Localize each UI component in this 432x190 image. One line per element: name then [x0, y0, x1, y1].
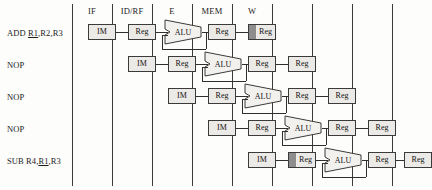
wire-mem-to-wb-row5	[396, 160, 404, 161]
alu-row2: ALU	[204, 51, 242, 77]
wire-im-to-reg-row5	[276, 160, 288, 161]
alu-row1-label: ALU	[168, 19, 198, 45]
wb-reg-row3-label: Reg	[336, 92, 349, 100]
im-box-row4-label: IM	[217, 124, 227, 132]
mem-reg-row1: Reg	[208, 24, 236, 40]
stage-header-if: IF	[76, 6, 108, 16]
stage-header-e: E	[156, 6, 188, 16]
alu-row3-label: ALU	[248, 83, 278, 109]
pipeline-diagram: IFID/RFEMEMW ADD R1,R2,R3NOPNOPNOPSUB R4…	[0, 0, 432, 190]
wb-reg-row2: Reg	[288, 56, 316, 72]
reg-file-row5-label: Reg	[299, 156, 312, 164]
wb-reg-row2-label: Reg	[296, 60, 309, 68]
wire-alu-feedback-row2	[202, 81, 246, 82]
wire-alu-feedback-up-row3	[242, 99, 243, 113]
mem-reg-row4: Reg	[328, 120, 356, 136]
wire-mem-to-wb-row1	[236, 32, 248, 33]
mem-reg-row5: Reg	[368, 152, 396, 168]
wire-alu-feedback-row5	[322, 177, 366, 178]
mem-reg-row5-label: Reg	[376, 156, 389, 164]
mem-reg-row1-label: Reg	[216, 28, 229, 36]
alu-row3: ALU	[244, 83, 282, 109]
instruction-label-3: NOP	[7, 92, 24, 102]
stage-header-w: W	[236, 6, 268, 16]
reg-file-row4-label: Reg	[256, 124, 269, 132]
wire-im-to-reg-row2	[156, 64, 168, 65]
mem-reg-row2-label: Reg	[256, 60, 269, 68]
reg-file-row3: Reg	[208, 88, 236, 104]
wire-im-to-reg-row1	[116, 32, 128, 33]
wire-mem-to-wb-row2	[276, 64, 288, 65]
alu-row1: ALU	[164, 19, 202, 45]
im-box-row5-label: IM	[257, 156, 267, 164]
wb-reg-row5: Reg	[404, 152, 432, 168]
wire-alu-lower-input-row5	[322, 163, 328, 164]
im-box-row2-label: IM	[137, 60, 147, 68]
im-box-row1: IM	[88, 24, 116, 40]
im-box-row3: IM	[168, 88, 196, 104]
wb-reg-row4: Reg	[368, 120, 396, 136]
im-box-row2: IM	[128, 56, 156, 72]
alu-row4: ALU	[284, 115, 322, 141]
mem-reg-row3: Reg	[288, 88, 316, 104]
wire-alu-feedback-row1	[162, 49, 206, 50]
instruction-label-2: NOP	[7, 60, 24, 70]
mem-reg-row3-label: Reg	[296, 92, 309, 100]
wb-reg-row1: Reg	[248, 24, 276, 40]
wb-reg-row1-label: Reg	[259, 28, 272, 36]
wire-alu-lower-input-row1	[162, 35, 168, 36]
wire-im-to-reg-row3	[196, 96, 208, 97]
reg-file-row1: Reg	[128, 24, 156, 40]
stage-header-idrf: ID/RF	[116, 6, 148, 16]
wb-reg-row4-label: Reg	[376, 124, 389, 132]
wire-alu-lower-input-row2	[202, 67, 208, 68]
wire-alu-feedback-row4	[282, 145, 326, 146]
stage-separator-0	[72, 4, 73, 186]
reg-file-row2: Reg	[168, 56, 196, 72]
wire-alu-feedback-down-row4	[326, 128, 327, 145]
alu-row2-label: ALU	[208, 51, 238, 77]
wire-alu-lower-input-row3	[242, 99, 248, 100]
reg-file-row2-label: Reg	[176, 60, 189, 68]
wire-alu-feedback-down-row2	[246, 64, 247, 81]
wire-alu-feedback-down-row1	[206, 32, 207, 49]
wire-alu-lower-input-row4	[282, 131, 288, 132]
mem-reg-row2: Reg	[248, 56, 276, 72]
alu-row5: ALU	[324, 147, 362, 173]
alu-row4-label: ALU	[288, 115, 318, 141]
im-box-row4: IM	[208, 120, 236, 136]
im-box-row3-label: IM	[177, 92, 187, 100]
reg-file-row5: Reg	[288, 152, 316, 168]
wire-mem-to-wb-row4	[356, 128, 368, 129]
reg-file-row4: Reg	[248, 120, 276, 136]
wire-mem-to-wb-row3	[316, 96, 328, 97]
alu-row5-label: ALU	[328, 147, 358, 173]
instruction-label-1: ADD R1,R2,R3	[7, 28, 63, 38]
wire-im-to-reg-row4	[236, 128, 248, 129]
stage-header-mem: MEM	[196, 6, 228, 16]
wire-alu-feedback-up-row2	[202, 67, 203, 81]
wire-alu-feedback-row3	[242, 113, 286, 114]
instruction-label-5: SUB R4,R1,R3	[7, 156, 61, 166]
wire-alu-feedback-down-row5	[366, 160, 367, 177]
reg-file-row1-label: Reg	[136, 28, 149, 36]
wb-reg-row3: Reg	[328, 88, 356, 104]
wb-reg-row5-label: Reg	[412, 156, 425, 164]
wire-alu-feedback-up-row4	[282, 131, 283, 145]
reg-file-row3-label: Reg	[216, 92, 229, 100]
wire-alu-feedback-down-row3	[286, 96, 287, 113]
wire-alu-feedback-up-row1	[162, 35, 163, 49]
im-box-row5: IM	[248, 152, 276, 168]
instruction-label-4: NOP	[7, 124, 24, 134]
wire-alu-feedback-up-row5	[322, 163, 323, 177]
mem-reg-row4-label: Reg	[336, 124, 349, 132]
im-box-row1-label: IM	[97, 28, 107, 36]
